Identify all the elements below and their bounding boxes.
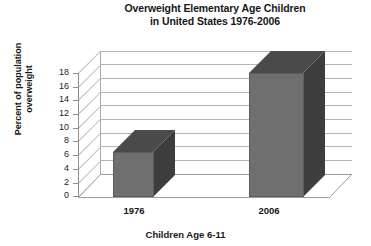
y-axis-label-4: 4: [41, 164, 69, 173]
y-tick-18: [73, 73, 78, 74]
y-tick-12: [73, 114, 78, 115]
bar-2006-side-face: [303, 51, 325, 197]
bar-1976[interactable]: [113, 130, 175, 197]
y-axis-title: Percent of population overweight: [13, 19, 35, 159]
y-tick-8: [73, 141, 78, 142]
y-axis-label-0: 0: [41, 191, 69, 200]
y-axis-label-12: 12: [41, 109, 69, 118]
y-tick-14: [73, 100, 78, 101]
y-tick-2: [73, 183, 78, 184]
x-axis-label-1976: 1976: [94, 205, 174, 216]
y-axis-label-2: 2: [41, 178, 69, 187]
y-tick-0: [73, 196, 78, 197]
y-tick-4: [73, 169, 78, 170]
y-tick-16: [73, 87, 78, 88]
y-axis-label-8: 8: [41, 136, 69, 145]
x-axis-title: Children Age 6-11: [0, 229, 371, 240]
y-tick-6: [73, 155, 78, 156]
chart-container: Overweight Elementary Age Children in Un…: [0, 0, 371, 246]
y-tick-10: [73, 128, 78, 129]
y-axis-line: [78, 73, 79, 197]
y-axis-label-10: 10: [41, 123, 69, 132]
y-axis-label-16: 16: [41, 82, 69, 91]
y-axis-label-6: 6: [41, 150, 69, 159]
x-axis-label-2006: 2006: [229, 205, 309, 216]
bar-1976-front-face: [113, 152, 154, 197]
bar-2006-front-face: [249, 73, 304, 197]
depth-line-8: [78, 119, 101, 142]
bar-2006[interactable]: [249, 51, 325, 197]
y-axis-label-18: 18: [41, 68, 69, 77]
plot-area: 18 16 14 12 10 8 6 4 2 0 1976 2006: [0, 0, 371, 246]
y-axis-title-line-1: Percent of population: [13, 19, 24, 159]
y-axis-title-line-2: overweight: [24, 19, 35, 159]
depth-line-18: [78, 51, 101, 74]
depth-line-14: [78, 78, 101, 101]
y-axis-label-14: 14: [41, 95, 69, 104]
